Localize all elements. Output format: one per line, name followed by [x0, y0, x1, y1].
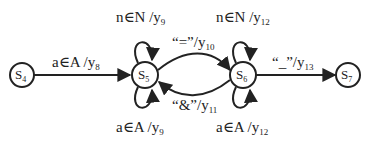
edge-s6-s7: “_”/y13 [256, 54, 335, 75]
svg-text:“=”/y10: “=”/y10 [172, 34, 215, 52]
edge-s6-loop-bottom: a∈A /y12 [216, 87, 268, 137]
svg-text:“&”/y11: “&”/y11 [172, 97, 217, 115]
svg-text:“_”/y13: “_”/y13 [272, 54, 314, 72]
state-s4: S4 [10, 63, 34, 87]
svg-text:n∈N /y12: n∈N /y12 [216, 9, 270, 27]
edge-label: a∈A /y [52, 54, 96, 70]
svg-text:n∈N /y9: n∈N /y9 [116, 9, 166, 27]
svg-text:a∈A /y9: a∈A /y9 [116, 119, 164, 137]
edge-s4-s5: a∈A /y8 [34, 54, 130, 75]
state-s7: S7 [336, 63, 360, 87]
edge-s5-loop-top: n∈N /y9 [116, 9, 166, 63]
edge-s6-loop-top: n∈N /y12 [216, 9, 270, 63]
svg-text:a∈A /y8: a∈A /y8 [52, 54, 100, 72]
edge-s5-loop-bottom: a∈A /y9 [116, 87, 164, 137]
svg-text:a∈A /y12: a∈A /y12 [216, 119, 268, 137]
edge-s5-s6: “=”/y10 [158, 34, 230, 70]
state-s5: S5 [132, 62, 158, 88]
edge-s6-s5: “&”/y11 [159, 80, 230, 115]
state-diagram: a∈A /y8 n∈N /y9 a∈A /y9 “=”/y10 “&”/y11 … [0, 0, 378, 143]
state-s6: S6 [230, 62, 256, 88]
